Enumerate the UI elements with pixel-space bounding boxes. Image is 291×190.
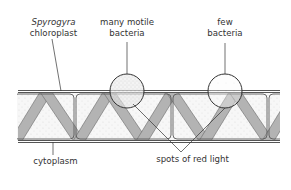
many-bacteria-line1: many motile	[100, 17, 154, 27]
chloroplast-word: chloroplast	[30, 28, 77, 38]
cytoplasm-label: cytoplasm	[28, 156, 83, 167]
few-bacteria-line1: few	[217, 17, 232, 27]
many-bacteria-line2: bacteria	[109, 28, 144, 38]
many-bacteria-label: many motile bacteria	[97, 17, 157, 38]
few-bacteria-spot	[208, 74, 242, 108]
red-light-label: spots of red light	[150, 154, 235, 165]
chloroplast-label: Spyrogyra chloroplast	[26, 17, 81, 38]
many-bacteria-spot	[110, 74, 144, 108]
filament	[0, 88, 291, 146]
genus-name: Spyrogyra	[31, 17, 75, 27]
few-bacteria-line2: bacteria	[207, 28, 242, 38]
few-bacteria-label: few bacteria	[200, 17, 250, 38]
